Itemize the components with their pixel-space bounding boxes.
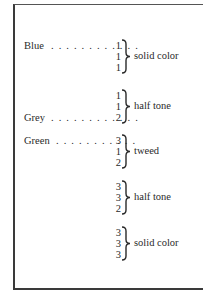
- code-number: 3: [114, 238, 121, 249]
- code-number: 1: [114, 51, 121, 62]
- group-note: tweed: [134, 145, 159, 156]
- code-number: 2: [114, 203, 121, 214]
- code-number: 1: [114, 90, 121, 101]
- color-label: Blue: [24, 40, 44, 51]
- group-note: solid color: [134, 237, 179, 248]
- brace-icon: [121, 39, 131, 74]
- code-number: 2: [114, 157, 121, 168]
- code-number: 1: [114, 146, 121, 157]
- brace-icon: [121, 89, 131, 124]
- code-number: 3: [114, 249, 121, 260]
- group-note: solid color: [134, 50, 179, 61]
- code-number: 1: [114, 62, 121, 73]
- code-number: 3: [114, 227, 121, 238]
- group-note: half tone: [134, 100, 171, 111]
- color-label: Grey: [24, 112, 45, 123]
- color-label: Green: [24, 135, 50, 146]
- brace-icon: [121, 180, 131, 215]
- group-note: half tone: [134, 191, 171, 202]
- code-number: 3: [114, 181, 121, 192]
- code-number: 3: [114, 192, 121, 203]
- code-number: 1: [114, 101, 121, 112]
- brace-icon: [121, 134, 131, 169]
- brace-icon: [121, 226, 131, 261]
